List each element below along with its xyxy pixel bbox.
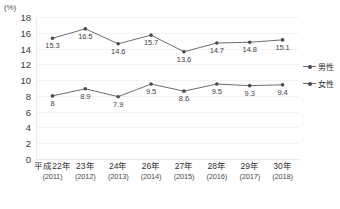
x-axis-era-label: 平成22年 [34,161,70,172]
x-axis-year-label: (2016) [207,172,227,182]
y-axis-tick-label: 6 [26,106,31,117]
x-axis-tick: 30年(2018) [272,161,292,182]
data-point [116,42,120,46]
y-axis-tick-label: 4 [26,122,31,133]
data-point [84,27,88,31]
legend-item-2[interactable]: 女性 [303,75,340,92]
x-axis-tick: 平成22年(2011) [34,161,70,182]
data-point [281,38,285,42]
legend-marker-icon [303,63,316,70]
data-point-label: 15.7 [144,38,158,47]
x-axis-year-label: (2015) [174,172,194,182]
data-point [281,83,285,87]
x-axis-era-label: 23年 [75,161,95,172]
x-axis-era-label: 26年 [141,161,161,172]
x-axis-tick: 26年(2014) [141,161,161,182]
chart-caption [0,202,340,209]
data-point-label: 9.5 [146,87,156,96]
data-point-label: 9.3 [245,89,255,98]
legend-label: 女性 [318,78,334,89]
data-point-label: 9.5 [212,87,222,96]
data-point-label: 15.3 [45,41,59,50]
data-point-label: 14.8 [243,45,257,54]
data-point-label: 7.9 [113,100,123,109]
series-layer [36,17,299,159]
x-axis-year-label: (2014) [141,172,161,182]
x-axis-year-label: (2018) [272,172,292,182]
data-point [182,50,186,54]
data-point [51,37,55,41]
data-point-label: 14.6 [111,47,125,56]
x-axis-tick: 24年(2013) [108,161,128,182]
gridline [36,159,299,160]
x-axis-era-label: 24年 [108,161,128,172]
data-point [116,95,120,99]
x-axis-era-label: 30年 [272,161,292,172]
y-axis-tick-label: 18 [20,12,31,23]
data-point [215,82,219,86]
x-axis-year-label: (2011) [34,172,70,182]
x-axis-tick: 28年(2016) [207,161,227,182]
x-axis-year-label: (2013) [108,172,128,182]
data-point-label: 8.6 [179,94,189,103]
data-point-label: 8 [50,99,54,108]
data-point-label: 15.1 [275,43,289,52]
x-axis-era-label: 27年 [174,161,194,172]
x-axis-tick: 29年(2017) [239,161,259,182]
data-point [149,82,153,86]
legend-marker-icon [303,80,316,87]
line-chart: (%) 024681012141618 15.316.514.615.713.6… [0,0,340,209]
x-axis-tick: 23年(2012) [75,161,95,182]
data-point-label: 9.4 [277,88,287,97]
y-axis-tick-label: 2 [26,138,31,149]
data-point [84,87,88,91]
y-axis-tick-label: 10 [20,75,31,86]
y-axis-tick-label: 16 [20,27,31,38]
data-point-label: 14.7 [210,46,224,55]
legend-item-1[interactable]: 男性 [303,58,340,75]
x-axis-year-label: (2017) [239,172,259,182]
x-axis-labels: 平成22年(2011)23年(2012)24年(2013)26年(2014)27… [36,161,299,195]
legend: 男性女性 [303,58,340,92]
data-point-label: 8.9 [80,92,90,101]
data-point [248,40,252,44]
data-point [215,41,219,45]
data-point [51,94,55,98]
y-axis-tick-label: 12 [20,59,31,70]
data-point-label: 16.5 [78,32,92,41]
y-axis-tick-label: 0 [26,154,31,165]
x-axis-year-label: (2012) [75,172,95,182]
y-axis-tick-label: 8 [26,90,31,101]
x-axis-era-label: 28年 [207,161,227,172]
x-axis-era-label: 29年 [239,161,259,172]
data-point-label: 13.6 [177,55,191,64]
data-point [248,84,252,88]
x-axis-tick: 27年(2015) [174,161,194,182]
legend-label: 男性 [318,61,334,72]
data-point [182,89,186,93]
data-point [149,33,153,37]
plot-area: 024681012141618 15.316.514.615.713.614.7… [36,17,299,159]
y-axis-tick-label: 14 [20,43,31,54]
y-axis-unit-label: (%) [4,3,16,12]
